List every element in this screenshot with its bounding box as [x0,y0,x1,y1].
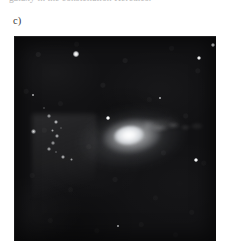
foreground-star [106,116,109,119]
galaxy-knot [47,147,51,151]
tidal-plume [150,116,206,138]
foreground-star [73,51,78,56]
astronomical-image-panel [14,36,216,241]
galaxy-knot [31,129,36,134]
galaxy-knot [47,114,50,117]
galaxy-knot [55,134,59,138]
subfigure-label-c: c) [13,15,22,27]
galaxy-knot [51,129,54,132]
caption-clip: galaxy in the constellation Hercules. [0,0,229,9]
foreground-star [211,43,215,47]
caption-cutoff-text: galaxy in the constellation Hercules. [9,0,224,4]
galaxy-knot [70,158,73,161]
galaxy-knot [61,155,65,159]
galaxy-knot [51,141,54,144]
foreground-star [194,158,197,161]
